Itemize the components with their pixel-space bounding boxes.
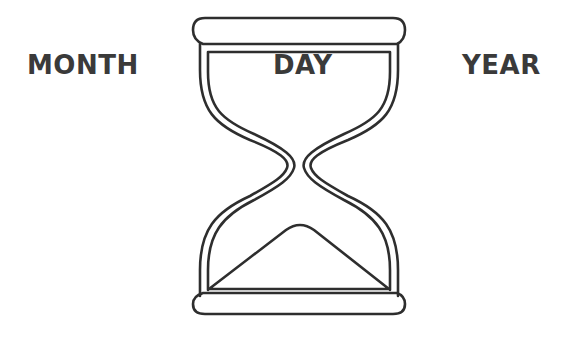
month-label: MONTH (27, 52, 139, 78)
year-label: YEAR (462, 52, 541, 78)
day-label: DAY (273, 52, 333, 78)
hourglass-bottom-cap (193, 293, 405, 314)
hourglass-top-cap (193, 18, 405, 44)
hourglass-inner-wall (208, 52, 390, 290)
hourglass-sand (209, 225, 389, 289)
hourglass-outer-wall (200, 44, 398, 296)
